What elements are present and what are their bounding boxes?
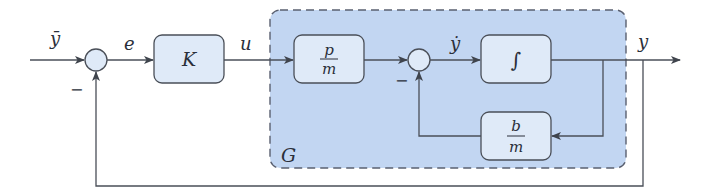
control-signal-label: u <box>240 33 252 54</box>
summing-junction-outer <box>85 49 107 71</box>
reference-signal-label: ȳ <box>49 28 61 49</box>
input-gain-numerator: p <box>324 41 334 59</box>
damping-numerator: b <box>511 117 521 135</box>
error-signal-label: e <box>124 33 135 54</box>
controller-block-label: K <box>181 48 198 70</box>
summing-junction-inner <box>408 49 430 71</box>
inner-feedback-minus-sign: − <box>395 71 408 90</box>
block-diagram: G ȳ − e K u p m − ẏ ∫ y b m <box>0 0 706 193</box>
output-signal-label: y <box>637 31 649 52</box>
integrator-block-label: ∫ <box>511 48 521 72</box>
outer-feedback-minus-sign: − <box>70 80 83 99</box>
damping-denominator: m <box>509 138 523 156</box>
plant-region-label: G <box>281 144 296 166</box>
plant-region-G <box>270 10 626 168</box>
velocity-signal-label: ẏ <box>449 33 461 54</box>
input-gain-denominator: m <box>322 60 336 78</box>
